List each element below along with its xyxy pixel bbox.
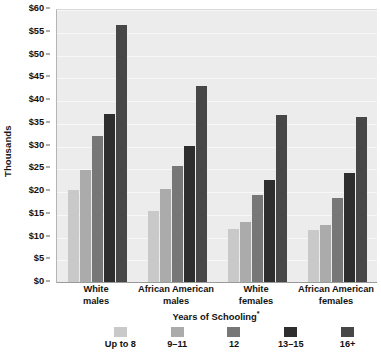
legend-swatch — [341, 327, 354, 337]
legend-label: Up to 8 — [105, 339, 136, 349]
bar — [320, 225, 331, 282]
category-label-line: females — [216, 296, 296, 308]
category-labels: WhitemalesAfrican AmericanmalesWhitefema… — [56, 284, 376, 310]
y-axis-tick-mark — [46, 121, 50, 122]
category-label: Whitefemales — [216, 284, 296, 310]
bar — [276, 115, 287, 282]
y-axis-tick-mark — [46, 235, 50, 236]
legend-item[interactable]: 16+ — [319, 327, 376, 355]
y-axis-tick-mark — [46, 258, 50, 259]
y-axis-tick-mark — [46, 212, 50, 213]
y-axis-tick-mark — [46, 99, 50, 100]
bar — [68, 190, 79, 282]
y-axis-tick-mark — [46, 167, 50, 168]
category-label-line: African American — [296, 284, 376, 296]
y-axis-tick-label: $40 — [29, 94, 44, 104]
bar — [104, 114, 115, 282]
bar — [344, 173, 355, 282]
bar — [196, 86, 207, 282]
bar — [160, 189, 171, 282]
y-axis-tick-label: $55 — [29, 26, 44, 36]
bar — [228, 229, 239, 282]
bar-group — [137, 10, 217, 282]
y-axis-tick-mark — [46, 190, 50, 191]
y-axis-tick-label: $10 — [29, 231, 44, 241]
legend-label: 12 — [229, 339, 239, 349]
y-axis-tick-mark — [46, 8, 50, 9]
category-label-line: males — [136, 296, 216, 308]
legend-item[interactable]: 12 — [206, 327, 263, 355]
category-label-line: males — [56, 296, 136, 308]
y-axis-tick-label: $35 — [29, 117, 44, 127]
bar-group — [297, 10, 377, 282]
bar-groups — [57, 10, 377, 282]
legend-swatch — [227, 327, 240, 337]
y-axis-tick-label: $15 — [29, 208, 44, 218]
category-label-line: females — [296, 296, 376, 308]
y-axis-tick-label: $60 — [29, 3, 44, 13]
x-axis-baseline — [57, 282, 377, 283]
bar — [332, 198, 343, 282]
y-axis-tick-label: $30 — [29, 140, 44, 150]
legend-label: 9–11 — [167, 339, 187, 349]
category-label: African Americanfemales — [296, 284, 376, 310]
y-axis-tick-label: $45 — [29, 71, 44, 81]
legend-label: 16+ — [340, 339, 356, 349]
bar — [92, 136, 103, 282]
bar — [172, 166, 183, 282]
legend-swatch — [284, 327, 297, 337]
y-axis-tick-mark — [46, 30, 50, 31]
bar — [264, 180, 275, 282]
legend-item[interactable]: 13–15 — [262, 327, 319, 355]
y-axis-tick-label: $20 — [29, 185, 44, 195]
category-label: Whitemales — [56, 284, 136, 310]
bar — [148, 211, 159, 282]
bar — [308, 230, 319, 282]
legend-swatch — [171, 327, 184, 337]
legend-item[interactable]: 9–11 — [149, 327, 206, 355]
y-axis-tick-label: $50 — [29, 49, 44, 59]
x-axis-title-footnote-marker: * — [257, 310, 260, 317]
category-label-line: White — [216, 284, 296, 296]
y-axis-tick-label: $5 — [34, 253, 44, 263]
bar — [80, 170, 91, 282]
legend-label: 13–15 — [278, 339, 304, 349]
bar-group — [57, 10, 137, 282]
bar — [356, 117, 367, 282]
y-axis-tick-labels: $60$55$50$45$40$35$30$25$20$15$10$5$0 — [22, 8, 50, 283]
y-axis-tick-label: $0 — [34, 276, 44, 286]
y-axis-tick-mark — [46, 144, 50, 145]
category-label-line: African American — [136, 284, 216, 296]
legend-swatch — [114, 327, 127, 337]
legend: Up to 89–111213–1516+ — [92, 327, 376, 355]
y-axis-title: Thousands — [2, 106, 20, 196]
category-label: African Americanmales — [136, 284, 216, 310]
plot-area — [56, 9, 377, 283]
bar-chart: Thousands $60$55$50$45$40$35$30$25$20$15… — [0, 0, 381, 359]
y-axis-tick-mark — [46, 76, 50, 77]
y-axis-tick-label: $25 — [29, 162, 44, 172]
x-axis-title-text: Years of Schooling — [172, 311, 256, 322]
bar — [252, 195, 263, 282]
bar — [184, 146, 195, 283]
y-axis-tick-mark — [46, 281, 50, 282]
legend-item[interactable]: Up to 8 — [92, 327, 149, 355]
y-axis-tick-mark — [46, 53, 50, 54]
category-label-line: White — [56, 284, 136, 296]
bar-group — [217, 10, 297, 282]
x-axis-title: Years of Schooling* — [56, 311, 376, 322]
bar — [116, 25, 127, 282]
bar — [240, 222, 251, 283]
